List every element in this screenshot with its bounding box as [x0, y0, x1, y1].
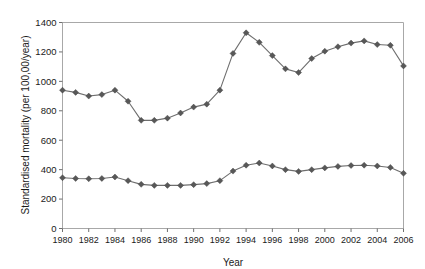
x-tick-label: 1984 — [105, 235, 125, 245]
x-tick-label: 1982 — [79, 235, 99, 245]
x-tick-label: 2004 — [367, 235, 387, 245]
x-tick-label: 1996 — [262, 235, 282, 245]
y-tick-label: 1200 — [35, 46, 56, 57]
x-tick-label: 1988 — [157, 235, 177, 245]
y-tick-label: 800 — [41, 105, 57, 116]
x-tick-label: 2006 — [393, 235, 413, 245]
x-tick-label: 1998 — [289, 235, 309, 245]
chart-figure: 0200400600800100012001400 19801982198419… — [0, 0, 425, 269]
x-tick-label: 1986 — [131, 235, 151, 245]
x-tick-label: 1990 — [184, 235, 204, 245]
x-axis-title: Year — [223, 257, 244, 268]
x-tick-label: 1992 — [210, 235, 230, 245]
y-tick-label: 400 — [41, 164, 57, 175]
y-tick-label: 1000 — [35, 76, 56, 87]
y-tick-label: 200 — [41, 193, 57, 204]
y-tick-label: 0 — [51, 223, 56, 234]
x-tick-label: 2002 — [341, 235, 361, 245]
x-tick-label: 1980 — [52, 235, 72, 245]
y-tick-label: 1400 — [35, 17, 56, 28]
x-tick-label: 1994 — [236, 235, 256, 245]
x-tick-label: 2000 — [315, 235, 335, 245]
y-tick-label: 600 — [41, 135, 57, 146]
y-axis-title: Standardised mortality (per 100,00/year) — [20, 36, 31, 215]
mortality-line-chart: 0200400600800100012001400 19801982198419… — [0, 0, 425, 269]
